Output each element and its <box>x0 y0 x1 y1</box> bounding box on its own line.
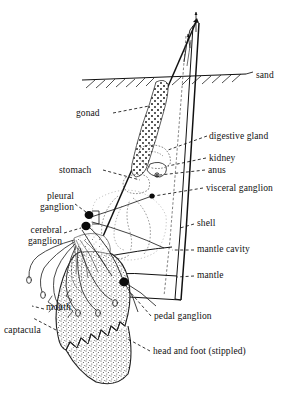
label-visceral-ganglion: visceral ganglion <box>206 183 273 194</box>
label-stomach: stomach <box>59 165 91 176</box>
leader-anus <box>160 170 205 175</box>
label-shell: shell <box>197 218 215 229</box>
kidney-organ <box>147 162 166 177</box>
leader-digestive-gland <box>168 136 207 150</box>
pedal-ganglion-dot <box>119 278 129 287</box>
gonad-organ <box>132 80 169 177</box>
leader-cerebral-ganglion <box>64 228 81 233</box>
leader-mouth <box>32 306 44 309</box>
label-mantle: mantle <box>197 270 223 281</box>
label-head-and-foot: head and foot (stippled) <box>153 346 246 357</box>
label-gonad: gonad <box>76 108 100 119</box>
leader-pedal-ganglion <box>130 292 151 316</box>
label-sand: sand <box>256 70 274 81</box>
label-anus: anus <box>208 165 226 176</box>
leader-pleural-ganglion <box>75 204 86 212</box>
label-pleural-ganglion-line1: pleural <box>47 191 74 201</box>
label-pedal-ganglion: pedal ganglion <box>154 311 212 322</box>
label-kidney: kidney <box>209 153 235 164</box>
label-cerebral-ganglion: cerebral ganglion <box>0 225 62 246</box>
label-captacula: captacula <box>4 325 41 336</box>
leader-visceral-ganglion <box>154 188 203 196</box>
leader-sand <box>246 72 253 74</box>
pleural-ganglion-dot <box>85 211 94 219</box>
label-pleural-ganglion-line2: ganglion <box>40 202 74 212</box>
label-cerebral-ganglion-line2: ganglion <box>28 236 62 246</box>
label-cerebral-ganglion-line1: cerebral <box>31 225 62 235</box>
leader-mantle <box>177 276 194 277</box>
label-pleural-ganglion: pleural ganglion <box>0 191 74 212</box>
anatomy-figure: sand gonad digestive gland kidney anus v… <box>0 0 296 401</box>
leader-gonad <box>113 106 149 113</box>
cerebral-ganglion-dot <box>81 222 90 230</box>
label-mantle-cavity: mantle cavity <box>197 244 250 255</box>
visceral-ganglion-dot <box>149 193 154 198</box>
label-digestive-gland: digestive gland <box>209 131 268 142</box>
leader-kidney <box>168 158 206 166</box>
label-mouth: mouth <box>46 302 71 313</box>
